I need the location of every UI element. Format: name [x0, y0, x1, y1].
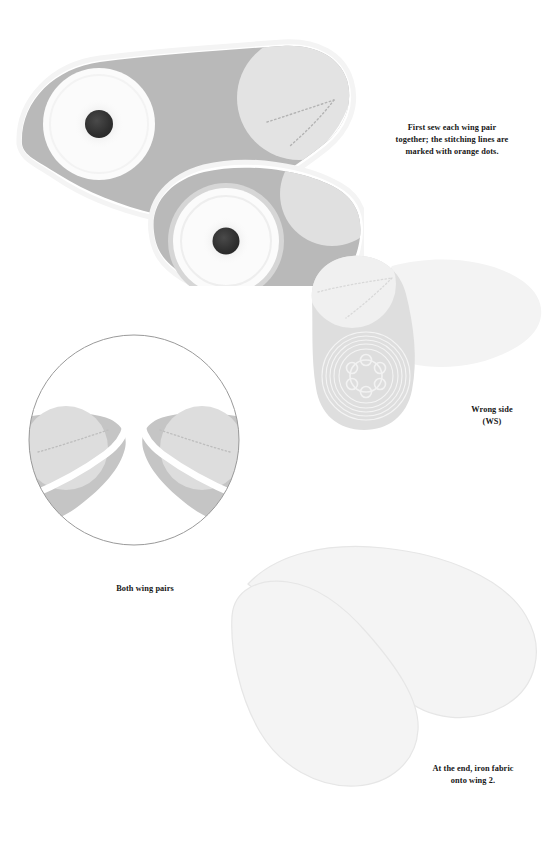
caption-final-step: At the end, iron fabric onto wing 2. [398, 763, 548, 787]
instruction-page: First sew each wing pair together; the s… [0, 0, 558, 844]
illustration-sewn-wing-pair [14, 24, 364, 286]
illustration-ironed-wing-outline [218, 524, 548, 790]
eye-left-group [43, 68, 155, 180]
caption-both-wing-pairs: Both wing pairs [62, 583, 228, 595]
fabric-patch-upper [237, 36, 361, 160]
caption-step-one: First sew each wing pair together; the s… [360, 122, 544, 159]
illustration-both-wing-pairs-inset [24, 330, 244, 552]
caption-wrong-side: Wrong side (WS) [440, 404, 544, 428]
pupil-left [85, 110, 113, 138]
pupil-right [213, 228, 240, 255]
